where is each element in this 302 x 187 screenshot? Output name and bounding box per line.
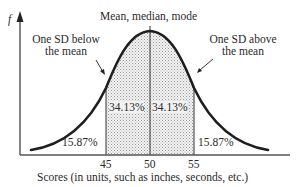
pct-left-tail: 15.87%: [62, 136, 97, 148]
y-axis-label: f: [8, 13, 11, 25]
x-axis-label: Scores (in units, such as inches, second…: [37, 171, 248, 183]
pct-right-mid: 34.13%: [152, 101, 187, 113]
pct-right-tail: 15.87%: [198, 136, 233, 148]
tick-55: 55: [188, 158, 200, 170]
tick-45: 45: [100, 158, 112, 170]
tick-50: 50: [144, 158, 156, 170]
one-sd-below-label: One SD below the mean: [26, 33, 106, 57]
below-arrowhead-icon: [100, 69, 105, 75]
top-label: Mean, median, mode: [100, 10, 197, 22]
one-sd-above-label: One SD above the mean: [202, 33, 284, 57]
below-line-2: the mean: [26, 45, 106, 57]
below-line-1: One SD below: [26, 33, 106, 45]
above-line-1: One SD above: [202, 33, 284, 45]
above-line-2: the mean: [202, 45, 284, 57]
y-axis-arrow-icon: [17, 11, 24, 22]
pct-left-mid: 34.13%: [109, 101, 144, 113]
above-arrow: [200, 59, 213, 70]
